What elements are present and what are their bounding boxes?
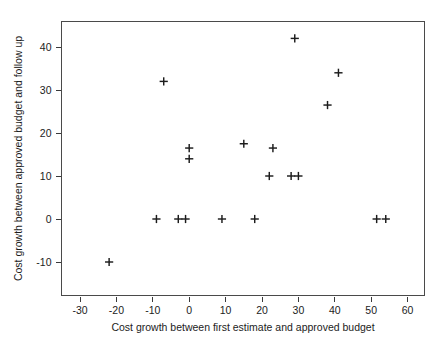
plot-area-border xyxy=(62,22,425,296)
data-point xyxy=(373,215,381,223)
y-axis-ticks: -10010203040 xyxy=(36,41,60,268)
x-axis-title: Cost growth between first estimate and a… xyxy=(111,321,374,333)
y-tick-label: 0 xyxy=(46,213,52,225)
x-tick-label: -10 xyxy=(145,304,160,316)
x-tick-label: 0 xyxy=(186,304,192,316)
data-point xyxy=(251,215,259,223)
plot-frame-group xyxy=(62,22,425,296)
data-point xyxy=(240,140,248,148)
data-points-group xyxy=(105,34,390,266)
data-point xyxy=(152,215,160,223)
axis-titles-group: Cost growth between first estimate and a… xyxy=(12,36,375,333)
data-point xyxy=(174,215,182,223)
x-tick-label: 40 xyxy=(329,304,341,316)
x-tick-label: 20 xyxy=(256,304,268,316)
y-tick-label: 40 xyxy=(40,41,52,53)
y-tick-label: 10 xyxy=(40,170,52,182)
y-tick-label: 20 xyxy=(40,127,52,139)
data-point xyxy=(287,172,295,180)
x-tick-label: 30 xyxy=(293,304,305,316)
data-point xyxy=(218,215,226,223)
x-tick-label: 10 xyxy=(220,304,232,316)
x-tick-label: 50 xyxy=(365,304,377,316)
data-point xyxy=(265,172,273,180)
scatter-plot: -30-20-100102030405060 -10010203040 Cost… xyxy=(0,0,441,344)
x-tick-label: -20 xyxy=(109,304,124,316)
data-point xyxy=(323,101,331,109)
data-point xyxy=(269,144,277,152)
y-axis-title: Cost growth between approved budget and … xyxy=(12,36,24,281)
data-point xyxy=(160,77,168,85)
x-tick-label: -30 xyxy=(72,304,87,316)
x-tick-label: 60 xyxy=(402,304,414,316)
data-point xyxy=(294,172,302,180)
figure-container: -30-20-100102030405060 -10010203040 Cost… xyxy=(0,0,441,344)
data-point xyxy=(334,69,342,77)
y-tick-label: -10 xyxy=(36,256,51,268)
x-axis-ticks: -30-20-100102030405060 xyxy=(72,297,413,316)
data-point xyxy=(181,215,189,223)
data-point xyxy=(185,144,193,152)
data-point xyxy=(382,215,390,223)
data-point xyxy=(105,258,113,266)
data-point xyxy=(185,155,193,163)
data-point xyxy=(291,34,299,42)
y-tick-label: 30 xyxy=(40,84,52,96)
